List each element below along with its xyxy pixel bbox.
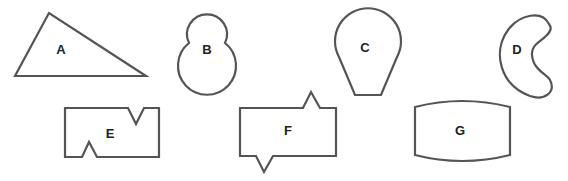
shape-d-label: D <box>512 42 521 57</box>
shape-c-label: C <box>360 40 370 55</box>
shape-g-label: G <box>455 123 465 138</box>
shape-b: B <box>178 14 236 94</box>
kidney-outline <box>500 15 552 97</box>
shape-a: A <box>15 13 146 76</box>
shape-e-label: E <box>106 126 115 141</box>
shape-b-label: B <box>202 42 211 57</box>
shape-a-label: A <box>56 42 66 57</box>
shape-f-label: F <box>284 123 292 138</box>
shape-c: C <box>335 8 401 95</box>
shape-f: F <box>240 92 336 172</box>
shape-d: D <box>500 15 552 97</box>
shape-g: G <box>415 101 510 161</box>
shape-e: E <box>65 108 159 157</box>
shapes-figure: A B C D E F G <box>0 0 568 181</box>
triangle-outline <box>15 13 146 76</box>
